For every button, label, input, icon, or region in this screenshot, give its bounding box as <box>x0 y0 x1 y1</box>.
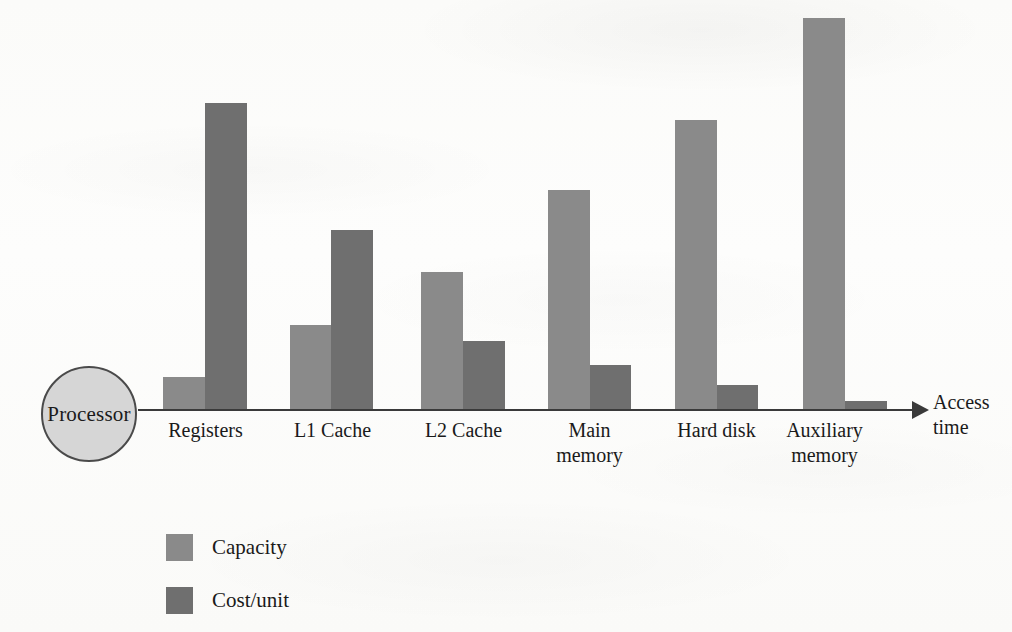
axis-baseline <box>138 409 920 411</box>
bar-registers-cost-unit <box>205 103 247 410</box>
bar-hard-disk-cost-unit <box>717 385 758 410</box>
category-label-registers: Registers <box>143 418 268 443</box>
category-label-hard-disk: Hard disk <box>654 418 779 443</box>
bar-l1-cache-capacity <box>290 325 331 410</box>
category-label-l1-cache: L1 Cache <box>270 418 395 443</box>
bar-l2-cache-capacity <box>421 272 463 410</box>
legend-label-cost-unit: Cost/unit <box>212 588 289 613</box>
legend-item-capacity: Capacity <box>166 521 289 574</box>
processor-node: Processor <box>41 366 137 462</box>
bar-main-memory-cost-unit <box>590 365 631 410</box>
axis-arrow-icon <box>912 401 929 419</box>
bar-main-memory-capacity <box>548 190 590 410</box>
legend-swatch-cost-unit <box>166 587 193 614</box>
legend-swatch-capacity <box>166 534 193 561</box>
processor-label: Processor <box>47 402 130 427</box>
legend-label-capacity: Capacity <box>212 535 287 560</box>
category-label-l2-cache: L2 Cache <box>401 418 526 443</box>
category-label-main-memory: Main memory <box>527 418 652 468</box>
legend-item-cost-unit: Cost/unit <box>166 574 289 627</box>
memory-hierarchy-bar-chart: Processor RegistersL1 CacheL2 CacheMain … <box>0 0 1012 632</box>
bar-l1-cache-cost-unit <box>331 230 373 410</box>
bar-l2-cache-cost-unit <box>463 341 505 410</box>
bar-registers-capacity <box>163 377 205 410</box>
category-label-auxiliary-memory: Auxiliary memory <box>762 418 887 468</box>
bar-auxiliary-memory-capacity <box>803 18 845 410</box>
bar-hard-disk-capacity <box>675 120 717 410</box>
chart-legend: CapacityCost/unit <box>166 521 289 627</box>
axis-title-access-time: Access time <box>933 390 990 440</box>
